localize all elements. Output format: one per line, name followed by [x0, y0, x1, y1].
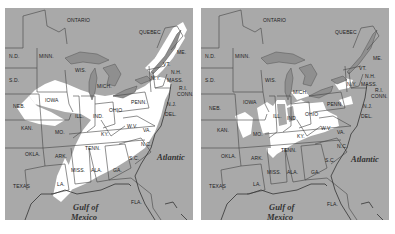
lake-michigan — [285, 68, 293, 100]
label-okla: OKLA. — [25, 151, 40, 157]
label-ark: ARK. — [55, 153, 67, 159]
label-mich: MICH. — [293, 89, 308, 95]
label-wv: W.V. — [127, 123, 138, 129]
label-ala: ALA. — [91, 167, 102, 173]
label-quebec: QUEBEC — [335, 29, 357, 35]
label-okla: OKLA. — [221, 153, 236, 159]
label-wis: WIS. — [75, 67, 86, 73]
label-penn: PENN. — [131, 99, 147, 105]
label-kan: KAN. — [21, 125, 33, 131]
label-fla: FLA. — [327, 201, 338, 207]
label-ga: GA. — [113, 167, 122, 173]
label-ny: N.Y. — [151, 75, 160, 81]
map-left-svg: ONTARIO QUEBEC N.D. MINN. S.D. WIS. MICH… — [5, 8, 193, 220]
label-va: VA. — [337, 129, 345, 135]
label-sc: S.C. — [325, 157, 335, 163]
label-neb: NEB. — [13, 103, 25, 109]
map-right: ONTARIO QUEBEC N.D. MINN. S.D. WIS. MICH… — [201, 8, 389, 220]
lake-ontario — [135, 76, 151, 84]
label-ontario: ONTARIO — [263, 17, 286, 23]
label-ill: ILL. — [75, 113, 84, 119]
label-sd: S.D. — [9, 77, 19, 83]
label-nh: N.H. — [171, 69, 181, 75]
label-texas: TEXAS — [13, 183, 30, 189]
label-ark: ARK. — [251, 155, 263, 161]
label-mo: MO. — [55, 129, 65, 135]
label-kan: KAN. — [217, 127, 229, 133]
label-ga: GA. — [311, 169, 320, 175]
label-iowa: IOWA — [243, 99, 257, 105]
label-gulf-line2: Mexico — [266, 212, 293, 220]
label-neb: NEB. — [209, 105, 221, 111]
label-gulf-line1: Gulf of — [73, 202, 99, 212]
lake-superior — [261, 52, 305, 64]
label-mo: MO. — [253, 131, 263, 137]
label-atlantic: Atlantic — [350, 154, 379, 164]
label-ky: KY. — [101, 131, 109, 137]
label-nd: N.D. — [9, 53, 19, 59]
label-wv: W.V. — [321, 125, 332, 131]
lake-erie — [309, 86, 333, 98]
label-ky: KY. — [297, 133, 305, 139]
label-sc: S.C. — [129, 155, 139, 161]
label-fla: FLA. — [131, 199, 142, 205]
label-ny: N.Y. — [347, 81, 356, 87]
label-ind: IND. — [93, 113, 103, 119]
label-nh: N.H. — [365, 73, 375, 79]
label-vt: VT. — [359, 65, 367, 71]
label-ind: IND. — [287, 115, 297, 121]
label-miss: MISS. — [71, 167, 85, 173]
lake-superior — [65, 52, 109, 64]
label-minn: MINN. — [39, 53, 54, 59]
label-del: DEL. — [361, 113, 373, 119]
label-mass: MASS. — [167, 77, 183, 83]
label-miss: MISS. — [267, 169, 281, 175]
label-del: DEL. — [165, 111, 177, 117]
map-left: ONTARIO QUEBEC N.D. MINN. S.D. WIS. MICH… — [5, 8, 193, 220]
label-ill: ILL. — [273, 113, 282, 119]
label-nj: N.J. — [167, 101, 176, 107]
label-ohio: OHIO — [109, 107, 122, 113]
label-ohio: OHIO — [305, 111, 318, 117]
lake-huron — [299, 64, 317, 86]
label-iowa: IOWA — [45, 97, 59, 103]
label-ontario: ONTARIO — [67, 17, 90, 23]
label-la: LA. — [253, 181, 261, 187]
label-nj: N.J. — [363, 103, 372, 109]
label-va: VA. — [143, 127, 151, 133]
label-gulf-line2: Mexico — [70, 212, 97, 220]
label-quebec: QUEBEC — [139, 29, 161, 35]
map-right-svg: ONTARIO QUEBEC N.D. MINN. S.D. WIS. MICH… — [201, 8, 389, 220]
label-nc: N.C. — [141, 141, 151, 147]
label-conn: CONN. — [177, 91, 193, 97]
label-nd: N.D. — [205, 53, 215, 59]
label-vt: VT. — [163, 61, 171, 67]
label-atlantic: Atlantic — [156, 152, 185, 162]
label-me: ME. — [177, 49, 186, 55]
label-penn: PENN. — [327, 101, 343, 107]
highlight-patch-ks — [235, 112, 253, 138]
label-conn: CONN. — [371, 93, 388, 99]
label-me: ME. — [373, 55, 382, 61]
label-tenn: TENN. — [85, 145, 101, 151]
label-mich: MICH. — [97, 83, 112, 89]
label-minn: MINN. — [235, 53, 250, 59]
label-ala: ALA. — [287, 169, 298, 175]
label-gulf-line1: Gulf of — [269, 202, 295, 212]
label-texas: TEXAS — [209, 183, 226, 189]
label-sd: S.D. — [205, 77, 215, 83]
label-la: LA. — [57, 181, 65, 187]
label-nc: N.C. — [337, 143, 347, 149]
label-tenn: TENN. — [281, 147, 297, 153]
label-wis: WIS. — [265, 77, 276, 83]
